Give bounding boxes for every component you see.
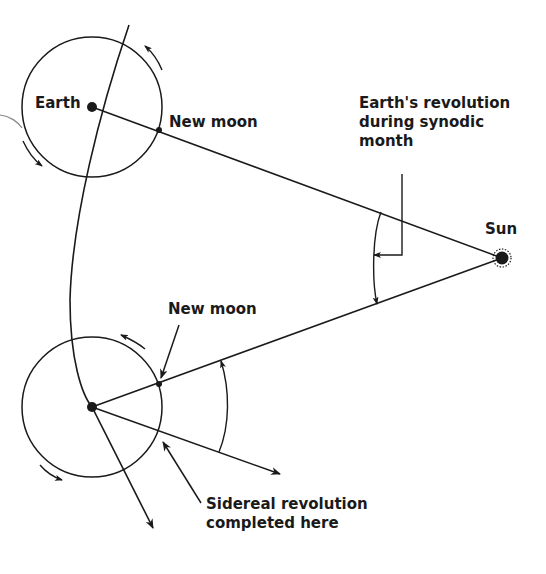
new-moon-leader [161,325,179,378]
earth-sun-line-bottom [92,258,502,407]
earth-dot-bottom [87,402,97,412]
sidereal-leader [163,442,201,503]
earth-orbit-path [70,25,153,528]
moon-dot-bottom [156,381,162,387]
earth-dot-top [87,102,97,112]
revolution-leader-line [374,174,402,255]
label-sidereal: Sidereal revolution completed here [206,495,368,533]
label-earth: Earth [35,94,81,113]
label-earth-revolution: Earth's revolution during synodic month [359,94,510,151]
label-new-moon-top: New moon [169,113,258,132]
label-new-moon-bottom: New moon [168,300,257,319]
sun-core [496,252,509,265]
left-edge-curve [0,115,22,128]
orbit-direction-arrow-bottom-left [40,465,62,480]
sidereal-angle-arc [219,361,228,452]
synodic-month-diagram [0,0,546,574]
orbit-direction-arrow-bottom-right [121,335,145,349]
orbit-direction-arrow-top-right [145,46,162,70]
label-sun: Sun [485,220,517,239]
synodic-angle-arc [374,212,381,304]
moon-dot-top [156,127,162,133]
